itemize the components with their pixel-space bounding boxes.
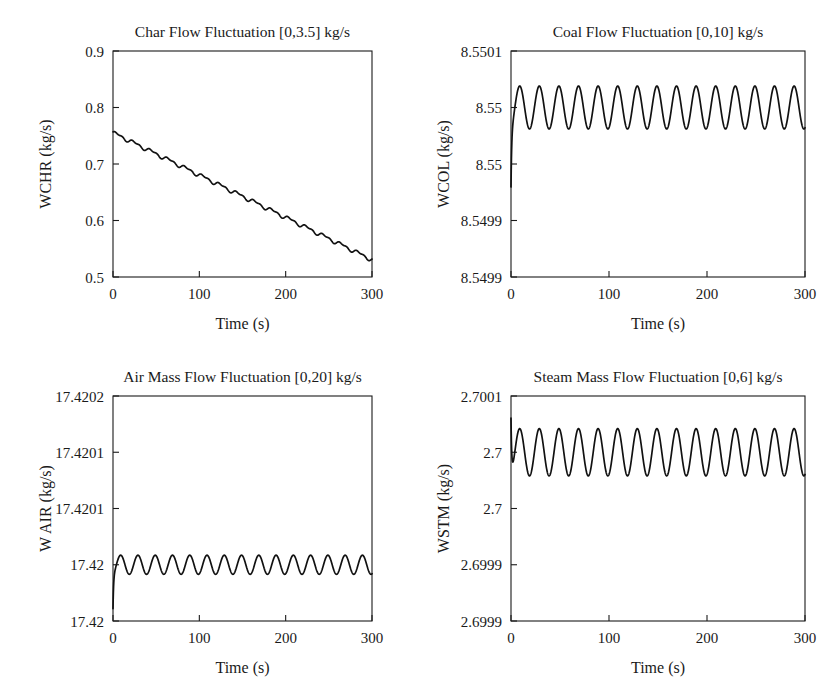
x-tick-label: 200 (696, 286, 719, 302)
plot-air-mass-flow: Air Mass Flow Fluctuation [0,20] kg/s17.… (0, 343, 409, 685)
x-tick-label: 0 (507, 286, 515, 302)
data-series-WCHR (113, 132, 372, 261)
x-tick-label: 300 (361, 286, 384, 302)
y-tick-label: 17.4202 (55, 389, 104, 405)
axes-frame (113, 396, 372, 621)
x-tick-label: 0 (109, 630, 117, 646)
data-series-WAIR (113, 555, 372, 608)
y-tick-label: 0.6 (85, 213, 104, 229)
y-axis-label: WCOL (kg/s) (435, 120, 453, 208)
y-axis-label: W AIR (kg/s) (37, 465, 55, 552)
y-axis-label: WCHR (kg/s) (37, 119, 55, 208)
panel-air-flow: Air Mass Flow Fluctuation [0,20] kg/s17.… (0, 343, 409, 685)
x-axis-label: Time (s) (215, 659, 269, 677)
plot-title: Char Flow Fluctuation [0,3.5] kg/s (135, 23, 350, 40)
axes-frame (511, 51, 805, 277)
x-tick-label: 200 (274, 630, 297, 646)
x-axis-label: Time (s) (631, 659, 685, 677)
y-tick-label: 17.42 (70, 557, 104, 573)
x-tick-label: 200 (696, 630, 719, 646)
y-tick-label: 17.4201 (55, 501, 104, 517)
plot-title: Steam Mass Flow Fluctuation [0,6] kg/s (534, 368, 783, 385)
x-tick-label: 300 (794, 630, 817, 646)
x-tick-label: 300 (361, 630, 384, 646)
x-tick-label: 100 (188, 630, 211, 646)
panel-coal-flow: Coal Flow Fluctuation [0,10] kg/s8.54998… (409, 0, 818, 343)
x-tick-label: 100 (598, 630, 621, 646)
plot-coal-flow: Coal Flow Fluctuation [0,10] kg/s8.54998… (409, 0, 818, 343)
y-tick-label: 17.4201 (55, 445, 104, 461)
y-tick-label: 8.55 (476, 157, 502, 173)
y-tick-label: 2.7 (483, 445, 502, 461)
x-tick-label: 300 (794, 286, 817, 302)
y-tick-label: 8.5499 (461, 213, 502, 229)
plot-title: Coal Flow Fluctuation [0,10] kg/s (553, 23, 764, 40)
y-tick-label: 2.7 (483, 501, 502, 517)
x-tick-label: 100 (188, 286, 211, 302)
x-axis-label: Time (s) (631, 315, 685, 333)
x-axis-label: Time (s) (215, 315, 269, 333)
x-tick-label: 200 (274, 286, 297, 302)
data-series-WSTM (511, 418, 805, 476)
y-tick-label: 17.42 (70, 614, 104, 630)
x-tick-label: 0 (109, 286, 117, 302)
y-tick-label: 0.5 (85, 270, 104, 286)
y-tick-label: 0.7 (85, 157, 104, 173)
y-tick-label: 2.6999 (461, 614, 502, 630)
figure-grid: Char Flow Fluctuation [0,3.5] kg/s0.50.6… (0, 0, 818, 685)
x-tick-label: 0 (507, 630, 515, 646)
plot-title: Air Mass Flow Fluctuation [0,20] kg/s (123, 368, 362, 385)
y-tick-label: 0.8 (85, 100, 104, 116)
y-tick-label: 8.5499 (461, 270, 502, 286)
y-tick-label: 2.7001 (461, 389, 502, 405)
panel-char-flow: Char Flow Fluctuation [0,3.5] kg/s0.50.6… (0, 0, 409, 343)
y-tick-label: 8.55 (476, 100, 502, 116)
panel-steam-flow: Steam Mass Flow Fluctuation [0,6] kg/s2.… (409, 343, 818, 685)
data-series-WCOL (511, 86, 805, 187)
x-tick-label: 100 (598, 286, 621, 302)
plot-steam-mass-flow: Steam Mass Flow Fluctuation [0,6] kg/s2.… (409, 343, 818, 685)
y-tick-label: 0.9 (85, 44, 104, 60)
y-tick-label: 8.5501 (461, 44, 502, 60)
y-axis-label: WSTM (kg/s) (435, 464, 453, 553)
y-tick-label: 2.6999 (461, 557, 502, 573)
plot-char-flow: Char Flow Fluctuation [0,3.5] kg/s0.50.6… (0, 0, 409, 343)
